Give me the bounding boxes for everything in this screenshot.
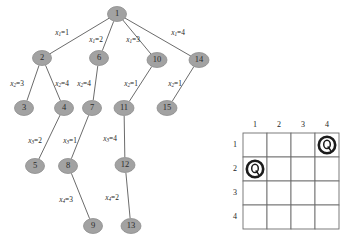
board-cell-r3-c2[interactable]: [267, 181, 291, 205]
edge-label-7-8: x3=1: [62, 136, 77, 145]
tree-node-label: 5: [33, 160, 37, 170]
board-cell-r2-c2[interactable]: [267, 157, 291, 181]
tree-edge-1-6: [102, 21, 113, 50]
edge-label-1-10: x1=3: [125, 35, 140, 44]
tree-node-4[interactable]: 4: [55, 101, 74, 116]
board-column-header-2: 2: [277, 120, 281, 129]
tree-node-label: 6: [97, 52, 101, 62]
board-cell-r1-c3[interactable]: [291, 133, 315, 157]
tree-node-label: 1: [115, 8, 119, 18]
tree-edge-4-5: [39, 115, 60, 159]
board-cell-r4-c2[interactable]: [267, 205, 291, 229]
board-cell-r1-c2[interactable]: [267, 133, 291, 157]
tree-edge-8-9: [71, 173, 89, 218]
tree-node-11[interactable]: 11: [114, 101, 134, 116]
edge-label-14-15: x2=1: [167, 79, 182, 88]
board-cell-r2-c4[interactable]: [315, 157, 339, 181]
edge-label-11-12: x3=4: [102, 134, 117, 143]
edge-label-8-9: x4=3: [58, 195, 73, 204]
tree-node-label: 9: [91, 220, 95, 230]
board-column-header-4: 4: [325, 120, 329, 129]
tree-edge-2-3: [27, 65, 39, 100]
edge-label-10-11: x2=1: [123, 79, 138, 88]
tree-node-1[interactable]: 1: [108, 7, 127, 22]
tree-node-3[interactable]: 3: [15, 101, 34, 116]
board-column-header-group: 1234: [253, 120, 329, 129]
edge-label-2-4: x2=4: [54, 79, 69, 88]
board-column-header-3: 3: [301, 120, 305, 129]
tree-node-13[interactable]: 13: [121, 219, 141, 234]
tree-edge-6-7: [93, 66, 98, 100]
tree-node-label: 7: [90, 102, 94, 112]
state-space-tree: x1=1x1=2x1=3x1=4x2=3x2=4x2=4x2=1x2=1x3=2…: [0, 0, 230, 245]
board-cell-r4-c3[interactable]: [291, 205, 315, 229]
tree-node-8[interactable]: 8: [59, 159, 78, 174]
tree-edge-11-12: [124, 116, 125, 157]
tree-node-label: 3: [22, 102, 26, 112]
board-row-header-3: 3: [233, 188, 237, 197]
tree-edge-group: [27, 18, 194, 219]
edge-label-12-13: x4=2: [104, 193, 119, 202]
tree-node-15[interactable]: 15: [157, 101, 177, 116]
board-cell-r4-c1[interactable]: [243, 205, 267, 229]
edge-label-4-5: x3=2: [27, 136, 42, 145]
tree-node-label: 8: [66, 160, 70, 170]
edge-label-2-3: x2=3: [9, 79, 24, 88]
tree-node-label: 13: [127, 220, 136, 230]
tree-node-12[interactable]: 12: [115, 158, 135, 173]
tree-node-label: 2: [40, 52, 44, 62]
tree-edge-12-13: [126, 173, 130, 218]
board-cell-r1-c1[interactable]: [243, 133, 267, 157]
board-cell-r4-c4[interactable]: [315, 205, 339, 229]
tree-node-label: 10: [153, 54, 162, 64]
tree-node-label: 12: [121, 159, 130, 169]
tree-node-7[interactable]: 7: [83, 101, 102, 116]
edge-label-1-14: x1=4: [170, 28, 185, 37]
edge-label-1-6: x1=2: [88, 35, 103, 44]
board-row-header-2: 2: [233, 164, 237, 173]
tree-node-label: 15: [163, 102, 172, 112]
chessboard: 1234 1234: [228, 0, 343, 245]
board-cell-r3-c1[interactable]: [243, 181, 267, 205]
board-row-header-1: 1: [233, 140, 237, 149]
board-row-header-group: 1234: [233, 140, 237, 221]
tree-node-14[interactable]: 14: [189, 53, 209, 68]
tree-node-10[interactable]: 10: [147, 53, 167, 68]
board-cell-r3-c3[interactable]: [291, 181, 315, 205]
figure-container: x1=1x1=2x1=3x1=4x2=3x2=4x2=4x2=1x2=1x3=2…: [0, 0, 343, 245]
tree-node-2[interactable]: 2: [33, 51, 52, 66]
board-row-header-4: 4: [233, 212, 237, 221]
board-cell-r2-c3[interactable]: [291, 157, 315, 181]
tree-node-6[interactable]: 6: [90, 51, 109, 66]
board-cell-r3-c4[interactable]: [315, 181, 339, 205]
tree-node-label: 11: [120, 102, 128, 112]
tree-node-9[interactable]: 9: [84, 219, 103, 234]
tree-node-label: 14: [195, 54, 204, 64]
edge-label-6-7: x2=4: [76, 79, 91, 88]
edge-label-1-2: x1=1: [54, 28, 69, 37]
tree-node-5[interactable]: 5: [26, 159, 45, 174]
board-column-header-1: 1: [253, 120, 257, 129]
